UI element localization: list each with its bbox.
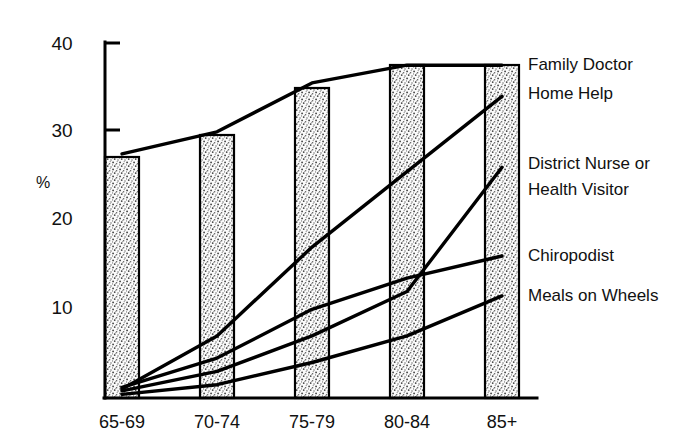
y-axis-title: % (36, 174, 50, 191)
band-80-84 (390, 65, 424, 398)
x-label-85-plus: 85+ (487, 412, 518, 432)
x-label-80-84: 80-84 (384, 412, 430, 432)
series-label-meals-on-wheels: Meals on Wheels (528, 286, 658, 305)
y-tick-label-40: 40 (51, 33, 72, 54)
band-65-69 (105, 157, 139, 398)
series-label-chiropodist: Chiropodist (528, 246, 614, 265)
y-tick-label-30: 30 (51, 120, 72, 141)
series-label-home-help: Home Help (528, 84, 613, 103)
line-chart: 40 30 20 10 % 65-69 70-74 75-79 80-84 85… (0, 0, 677, 442)
chart-page: 40 30 20 10 % 65-69 70-74 75-79 80-84 85… (0, 0, 677, 442)
series-label-family-doctor: Family Doctor (528, 55, 633, 74)
x-label-75-79: 75-79 (289, 412, 335, 432)
y-tick-label-10: 10 (51, 297, 72, 318)
series-label-district-nurse-line2: Health Visitor (528, 180, 629, 199)
band-85-plus (485, 65, 519, 398)
y-tick-label-20: 20 (51, 208, 72, 229)
x-label-65-69: 65-69 (99, 412, 145, 432)
x-label-70-74: 70-74 (194, 412, 240, 432)
band-75-79 (295, 88, 329, 398)
series-label-district-nurse-line1: District Nurse or (528, 154, 650, 173)
